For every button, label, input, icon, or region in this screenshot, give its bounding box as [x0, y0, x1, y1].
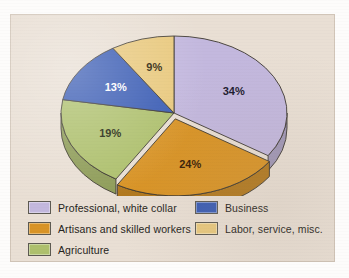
legend-item[interactable]: Artisans and skilled workers — [28, 219, 191, 238]
legend-swatch — [195, 222, 218, 235]
legend-item-label: Business — [225, 202, 268, 214]
legend-swatch — [195, 201, 218, 214]
pie-slice-value-label: 34% — [223, 85, 245, 97]
pie-slice-value-label: 9% — [146, 61, 162, 73]
legend-item-label: Agriculture — [58, 244, 109, 256]
legend-column-right: BusinessLabor, service, misc. — [195, 198, 323, 240]
chart-screenshot: 34%24%19%13%9% Professional, white colla… — [0, 0, 349, 278]
legend-item[interactable]: Business — [195, 198, 323, 217]
legend-column-left: Professional, white collarArtisans and s… — [28, 198, 191, 261]
pie-slice-value-label: 13% — [105, 81, 127, 93]
legend-item-label: Labor, service, misc. — [225, 223, 323, 235]
chart-panel: 34%24%19%13%9% Professional, white colla… — [10, 14, 335, 262]
legend-swatch — [28, 201, 51, 214]
pie-slice-value-label: 24% — [179, 158, 201, 170]
pie-chart-svg: 34%24%19%13%9% — [10, 14, 335, 196]
legend-item[interactable]: Labor, service, misc. — [195, 219, 323, 238]
legend-item[interactable]: Agriculture — [28, 240, 191, 259]
legend-item[interactable]: Professional, white collar — [28, 198, 191, 217]
pie-chart: 34%24%19%13%9% — [10, 14, 335, 196]
legend-item-label: Professional, white collar — [58, 202, 177, 214]
legend-item-label: Artisans and skilled workers — [58, 223, 191, 235]
chart-legend: Professional, white collarArtisans and s… — [28, 198, 328, 260]
legend-swatch — [28, 222, 51, 235]
pie-slice-value-label: 19% — [99, 127, 121, 139]
legend-swatch — [28, 243, 51, 256]
